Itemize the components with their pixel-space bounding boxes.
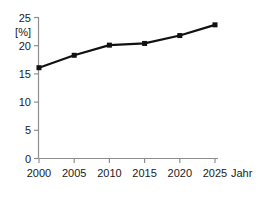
- y-tick-label-15: 15: [19, 68, 31, 80]
- data-point-2000: [37, 65, 42, 70]
- data-point-2025: [213, 22, 218, 27]
- x-tick-label-2010: 2010: [97, 167, 121, 179]
- y-tick-label-25: 25: [19, 12, 31, 24]
- x-tick-label-2020: 2020: [168, 167, 192, 179]
- data-point-2005: [72, 53, 77, 58]
- x-tick-label-2005: 2005: [62, 167, 86, 179]
- y-tick-label-0: 0: [25, 153, 31, 165]
- y-tick-label-10: 10: [19, 96, 31, 108]
- x-tick-label-2015: 2015: [132, 167, 156, 179]
- data-series-markers: [37, 22, 218, 70]
- x-tick-label-2000: 2000: [27, 167, 51, 179]
- x-tick-label-2025: 2025: [203, 167, 227, 179]
- chart-canvas: 25 [%] 20 15 10 5 0 2000 2005 2010 2015 …: [0, 0, 263, 198]
- data-point-2015: [142, 41, 147, 46]
- y-tick-label-5: 5: [25, 124, 31, 136]
- line-chart: 25 [%] 20 15 10 5 0 2000 2005 2010 2015 …: [0, 0, 263, 198]
- data-point-2010: [107, 43, 112, 48]
- data-point-2020: [177, 33, 182, 38]
- y-tick-label-20: 20: [19, 40, 31, 52]
- data-series-line: [39, 25, 215, 68]
- y-axis-unit-label: [%]: [15, 26, 31, 38]
- x-axis-title: Jahr: [231, 167, 253, 179]
